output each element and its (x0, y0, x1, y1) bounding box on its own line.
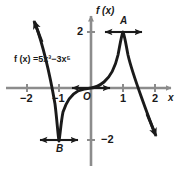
curve-path (35, 23, 154, 141)
graph-canvas (0, 0, 181, 172)
equation-label: f (x) =5x³−3x⁵ (14, 55, 71, 64)
y-axis-label: f (x) (96, 6, 114, 16)
function-curve (34, 21, 156, 141)
x-tick-label-neg2: −2 (20, 93, 33, 104)
x-axis-label: x (168, 93, 174, 103)
point-a-label: A (120, 16, 127, 26)
x-tick-label-pos1: 1 (120, 93, 126, 104)
curve-left-arrow (34, 21, 42, 42)
function-graph-figure: f (x) =5x³−3x⁵ f (x) x −2 −1 1 2 2 −2 O … (0, 0, 181, 172)
y-tick-label-neg2: −2 (101, 134, 114, 145)
point-b-label: B (56, 144, 63, 154)
x-tick-label-pos2: 2 (152, 93, 158, 104)
x-tick-label-neg1: −1 (52, 93, 65, 104)
y-tick-label-pos2: 2 (77, 26, 83, 37)
curve-right-arrow (147, 114, 156, 136)
origin-label: O (83, 92, 91, 102)
